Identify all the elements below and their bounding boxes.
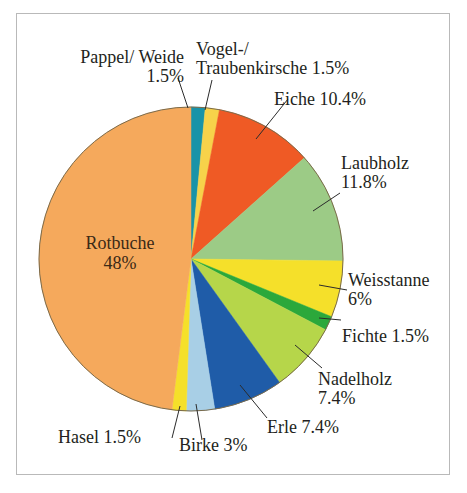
label-pappel-weide: Pappel/ Weide1.5%: [44, 48, 184, 87]
label-rotbuche-line1: Rotbuche: [86, 233, 155, 253]
label-vogel-line1: Vogel-/: [196, 39, 249, 59]
label-rotbuche-line2: 48%: [104, 253, 137, 273]
label-hasel: Hasel 1.5%: [58, 428, 141, 447]
label-vogel-line2: Traubenkirsche 1.5%: [196, 58, 349, 78]
leader-line-hasel: [172, 406, 180, 438]
label-birke: Birke 3%: [179, 436, 247, 455]
label-rotbuche: Rotbuche48%: [60, 234, 180, 274]
label-eiche: Eiche 10.4%: [274, 90, 366, 109]
label-nadelholz-line2: 7.4%: [318, 388, 356, 408]
label-pappel-weide-line2: 1.5%: [147, 66, 185, 86]
label-nadelholz-line1: Nadelholz: [318, 369, 392, 389]
label-pappel-weide-line1: Pappel/ Weide: [80, 47, 184, 67]
pie-chart: Pappel/ Weide1.5% Vogel-/Traubenkirsche …: [0, 0, 467, 493]
label-weisstanne-line1: Weisstanne: [348, 270, 430, 290]
label-weisstanne: Weisstanne6%: [348, 271, 430, 310]
label-weisstanne-line2: 6%: [348, 289, 372, 309]
label-laubholz: Laubholz11.8%: [341, 154, 409, 193]
label-laubholz-line2: 11.8%: [341, 172, 387, 192]
label-erle: Erle 7.4%: [267, 418, 339, 437]
label-nadelholz: Nadelholz7.4%: [318, 370, 392, 409]
leader-line-vogel: [205, 80, 212, 110]
label-laubholz-line1: Laubholz: [341, 153, 409, 173]
chart-page: Pappel/ Weide1.5% Vogel-/Traubenkirsche …: [0, 0, 467, 493]
label-vogel-traubenkirsche: Vogel-/Traubenkirsche 1.5%: [196, 40, 426, 79]
label-fichte: Fichte 1.5%: [342, 327, 429, 346]
